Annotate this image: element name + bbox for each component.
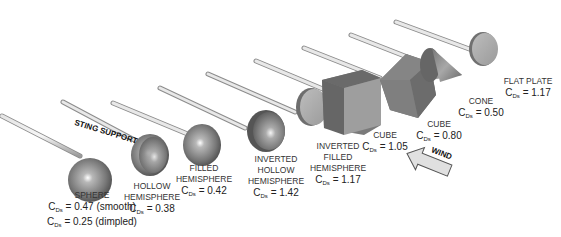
cd-value-dimpled: CDs = 0.25 (dimpled)	[42, 216, 142, 231]
inverted-hollow-hemisphere-shape	[247, 110, 285, 152]
filled-hemisphere-shape	[183, 124, 221, 166]
cone-shape	[420, 48, 462, 82]
object-name: CUBE	[360, 130, 410, 141]
label-filled-hemisphere: FILLED HEMISPHERE CDs = 0.42	[172, 163, 236, 200]
label-flat-plate: FLAT PLATE CDs = 1.17	[500, 76, 556, 102]
cd-value: CDs = 1.42	[244, 187, 308, 202]
cd-value: CDs = 0.50	[456, 107, 506, 122]
object-name: FILLED	[172, 163, 236, 174]
cube-face-on-shape	[322, 70, 381, 135]
flat-plate-shape	[469, 32, 498, 66]
cd-value: CDs = 1.17	[500, 87, 556, 102]
object-name: CONE	[456, 96, 506, 107]
cd-value: CDs = 1.05	[360, 141, 410, 156]
label-cone: CONE CDs = 0.50	[456, 96, 506, 122]
wind-arrow	[403, 142, 455, 181]
object-name-3: HEMISPHERE	[306, 163, 370, 174]
label-cube-edge-on: CUBE CDs = 0.80	[414, 119, 464, 145]
object-name: INVERTED	[244, 154, 308, 165]
label-cube-face-on: CUBE CDs = 1.05	[360, 130, 410, 156]
object-name-3: HEMISPHERE	[244, 176, 308, 187]
object-name: FLAT PLATE	[500, 76, 556, 87]
cd-value: CDs = 0.80	[414, 130, 464, 145]
cd-value: CDs = 0.42	[172, 185, 236, 200]
cd-value: CDs = 1.17	[306, 174, 370, 189]
object-name-2: HEMISPHERE	[172, 174, 236, 185]
label-inverted-hollow-hemisphere: INVERTED HOLLOW HEMISPHERE CDs = 1.42	[244, 154, 308, 202]
object-name-2: HOLLOW	[244, 165, 308, 176]
cd-value: CDs = 0.38	[120, 203, 184, 218]
